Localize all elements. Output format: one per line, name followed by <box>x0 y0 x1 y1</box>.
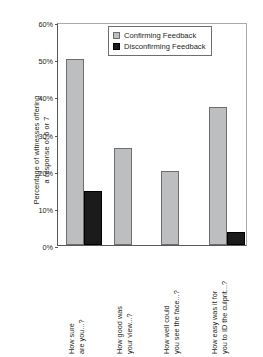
x-axis-category-label-line-2: you to ID the culprit...? <box>220 250 230 354</box>
y-axis-tick-mark <box>55 210 59 211</box>
bar-confirming <box>209 107 227 245</box>
x-axis-category-label-line-2: are you...? <box>77 250 87 354</box>
bar-confirming <box>161 171 179 245</box>
bar-confirming <box>66 59 84 245</box>
x-axis-category-label: How sureare you...? <box>65 250 95 354</box>
y-axis-title: Percentage of witnesses offering a respo… <box>6 50 32 250</box>
x-axis-category-label-line-1: How well could <box>162 250 172 354</box>
legend-label-confirming: Confirming Feedback <box>124 31 196 40</box>
y-axis-tick-mark <box>55 24 59 25</box>
x-axis-category-label: How easy was it foryou to ID the culprit… <box>208 250 238 354</box>
bar-chart-figure: Percentage of witnesses offering a respo… <box>0 0 263 357</box>
y-axis-tick-mark <box>55 61 59 62</box>
y-axis-tick-mark <box>55 173 59 174</box>
chart-legend: Confirming Feedback Disconfirming Feedba… <box>108 26 212 56</box>
bar-confirming <box>114 148 132 245</box>
x-axis-category-label-line-2: you see the face...? <box>172 250 182 354</box>
x-axis-category-label-line-1: How sure <box>67 250 77 354</box>
x-axis-category-label: How good wasyour view...? <box>113 250 143 354</box>
legend-entry-disconfirming: Disconfirming Feedback <box>113 41 205 52</box>
x-axis-category-label: How well couldyou see the face...? <box>160 250 190 354</box>
y-axis-tick-mark <box>55 136 59 137</box>
x-axis-category-label-line-1: How good was <box>115 250 125 354</box>
x-axis-category-label-line-2: your view...? <box>125 250 135 354</box>
bar-disconfirming <box>227 232 245 245</box>
y-axis-tick-mark <box>55 98 59 99</box>
legend-swatch-confirming <box>113 32 120 39</box>
y-axis-title-line-1: Percentage of witnesses offering <box>32 96 41 205</box>
bar-disconfirming <box>84 191 102 245</box>
legend-entry-confirming: Confirming Feedback <box>113 30 205 41</box>
plot-area: 60%50%40%30%20%10%0% <box>57 23 247 246</box>
legend-swatch-disconfirming <box>113 43 120 50</box>
y-axis-title-line-2: a response of 6 or 7 <box>42 50 52 250</box>
x-axis-category-label-line-1: How easy was it for <box>210 250 220 354</box>
legend-label-disconfirming: Disconfirming Feedback <box>124 42 205 51</box>
y-axis-tick-mark <box>55 247 59 248</box>
